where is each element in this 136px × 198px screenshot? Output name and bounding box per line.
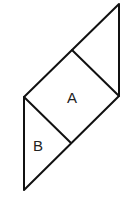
square-edge-lower <box>24 97 71 143</box>
parallelogram-diagram: A B <box>0 0 136 198</box>
region-label-b: B <box>33 137 43 154</box>
square-edge-upper <box>72 50 119 96</box>
region-label-a: A <box>67 89 77 106</box>
